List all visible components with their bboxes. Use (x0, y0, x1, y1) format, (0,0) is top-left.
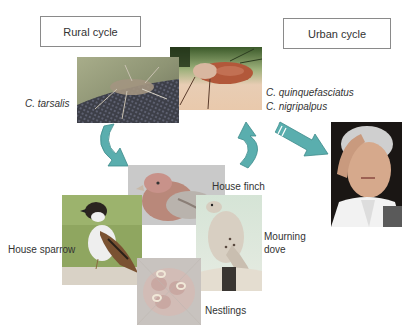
mosquito-photo (77, 57, 179, 123)
nestlings-photo (137, 258, 201, 325)
rural-vector-label: C. tarsalis (25, 97, 69, 111)
sick-woman-photo (331, 122, 402, 227)
mourning-dove-photo (196, 195, 262, 291)
urban-cycle-label: Urban cycle (308, 28, 366, 40)
house-sparrow-label: House sparrow (8, 243, 75, 257)
mosquito-to-human-arrow-icon (270, 118, 332, 160)
mosquito-to-birds-curved-arrow-icon (92, 122, 137, 170)
mourning-dove-label-1: Mourning (264, 230, 306, 244)
house-finch-label: House finch (212, 180, 265, 194)
birds-to-mosquito-curved-arrow-icon (232, 120, 270, 170)
nestlings-label: Nestlings (205, 304, 246, 318)
rural-cycle-box: Rural cycle (40, 16, 141, 47)
rural-cycle-label: Rural cycle (63, 26, 117, 38)
house-sparrow-photo (62, 195, 142, 285)
engorged-mosquito-photo (170, 47, 262, 110)
urban-cycle-box: Urban cycle (283, 18, 391, 49)
urban-vector-label-1: C. quinquefasciatus (266, 86, 354, 100)
urban-vector-label-2: C. nigripalpus (266, 100, 327, 114)
mourning-dove-label-2: dove (264, 243, 286, 257)
